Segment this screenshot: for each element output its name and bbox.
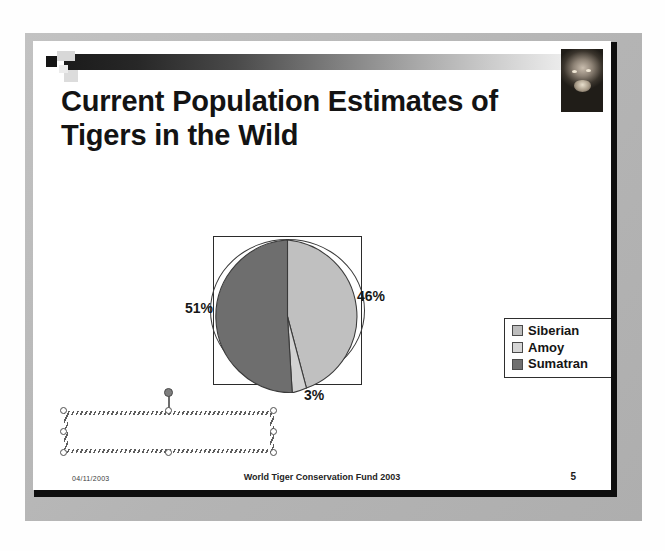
- resize-handle-bottom-right[interactable]: [270, 449, 277, 456]
- selected-text-placeholder[interactable]: [64, 411, 274, 453]
- legend-swatch-sumatran: [512, 359, 523, 370]
- footer-page-number: 5: [570, 471, 576, 482]
- legend-item-siberian[interactable]: Siberian: [512, 324, 607, 338]
- header-light-square-icon-3: [59, 65, 68, 73]
- pie-slice-sumatran[interactable]: [216, 240, 292, 393]
- chart-plot-area[interactable]: [213, 236, 362, 385]
- legend-swatch-siberian: [512, 325, 523, 336]
- resize-handle-top-left[interactable]: [60, 407, 67, 414]
- legend-label-amoy: Amoy: [528, 341, 564, 355]
- legend-label-sumatran: Sumatran: [528, 357, 588, 371]
- tiger-eye-right: [586, 69, 591, 72]
- pie-slices: [211, 240, 364, 393]
- header-dark-square-icon: [46, 56, 57, 67]
- header-gradient-band: [64, 54, 585, 70]
- pie-label-siberian: 46%: [357, 288, 385, 304]
- scanned-page-background: Current Population Estimates of Tigers i…: [0, 0, 665, 551]
- pie-label-sumatran: 51%: [185, 300, 213, 316]
- header-light-square-icon-1: [57, 51, 75, 61]
- legend-item-amoy[interactable]: Amoy: [512, 341, 607, 355]
- chart-legend[interactable]: Siberian Amoy Sumatran: [504, 318, 611, 378]
- footer-center-text: World Tiger Conservation Fund 2003: [33, 472, 611, 482]
- resize-handle-middle-left[interactable]: [60, 428, 67, 435]
- legend-item-sumatran[interactable]: Sumatran: [512, 357, 607, 371]
- resize-handle-top-right[interactable]: [270, 407, 277, 414]
- pie-label-amoy: 3%: [304, 387, 324, 403]
- resize-handle-bottom-middle[interactable]: [165, 449, 172, 456]
- resize-handle-middle-right[interactable]: [270, 428, 277, 435]
- page-title: Current Population Estimates of Tigers i…: [61, 85, 575, 153]
- rotate-handle[interactable]: [164, 388, 173, 397]
- tiger-eye-left: [572, 70, 577, 73]
- legend-label-siberian: Siberian: [528, 324, 579, 338]
- resize-handle-bottom-left[interactable]: [60, 449, 67, 456]
- text-placeholder-border[interactable]: [64, 411, 274, 453]
- presentation-slide[interactable]: Current Population Estimates of Tigers i…: [33, 41, 611, 490]
- pie-chart[interactable]: [210, 239, 365, 382]
- resize-handle-top-middle[interactable]: [165, 407, 172, 414]
- legend-swatch-amoy: [512, 342, 523, 353]
- tiger-muzzle: [574, 80, 591, 92]
